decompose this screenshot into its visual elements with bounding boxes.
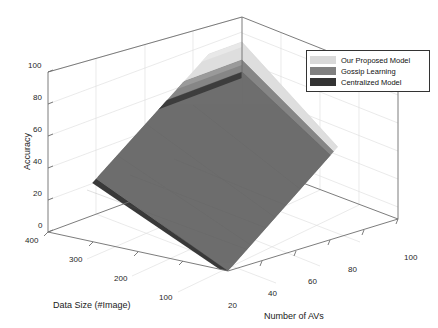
z-tick-label-0: 0 [38, 221, 42, 230]
z-tick-label-20: 20 [33, 189, 42, 198]
x-tick-label-400: 400 [25, 236, 38, 245]
x-tick-label-200: 200 [114, 274, 127, 283]
y-tick-label-80: 80 [348, 265, 357, 274]
figure-3d-surface-plot: 100 80 60 40 20 0 400 300 200 100 20 40 … [0, 0, 438, 328]
legend: Our Proposed Model Gossip Learning Centr… [306, 50, 430, 92]
z-tick-label-60: 60 [33, 125, 42, 134]
x-tick-label-100: 100 [159, 293, 172, 302]
legend-label-centralized-model: Centralized Model [341, 78, 401, 87]
legend-item-centralized-model[interactable]: Centralized Model [310, 77, 426, 87]
legend-item-our-proposed-model[interactable]: Our Proposed Model [310, 55, 426, 65]
legend-swatch-our-proposed-model [310, 56, 336, 64]
z-tick-label-100: 100 [28, 61, 41, 70]
x-tick-label-300: 300 [69, 255, 82, 264]
y-tick-label-40: 40 [268, 289, 277, 298]
legend-item-gossip-learning[interactable]: Gossip Learning [310, 66, 426, 76]
legend-label-gossip-learning: Gossip Learning [341, 67, 396, 76]
legend-swatch-centralized-model [310, 78, 336, 86]
z-tick-label-40: 40 [33, 157, 42, 166]
y-tick-label-60: 60 [308, 277, 317, 286]
y-tick-label-100: 100 [404, 253, 417, 262]
legend-swatch-gossip-learning [310, 67, 336, 75]
x-axis-title-data-size: Data Size (#Image) [53, 300, 131, 310]
z-tick-label-80: 80 [33, 93, 42, 102]
y-axis-title-number-of-avs: Number of AVs [264, 311, 324, 321]
y-tick-label-20: 20 [228, 301, 237, 310]
legend-label-our-proposed-model: Our Proposed Model [341, 56, 410, 65]
z-axis-title-accuracy: Accuracy [22, 133, 32, 170]
